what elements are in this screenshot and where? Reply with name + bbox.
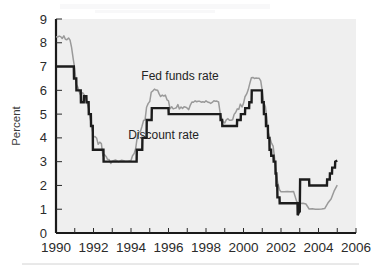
y-tick-label: 3 xyxy=(40,154,47,169)
y-tick-label: 1 xyxy=(40,202,47,217)
y-tick-label: 8 xyxy=(40,35,47,50)
y-tick-label: 4 xyxy=(40,130,47,145)
x-tick-label: 1998 xyxy=(191,240,221,255)
x-axis-tick-labels: 199019921994199619982000200220042006 xyxy=(41,240,371,255)
x-tick-label: 1992 xyxy=(78,240,108,255)
plot-area-background xyxy=(56,19,356,233)
y-axis-title: Percent xyxy=(10,105,22,145)
y-tick-label: 7 xyxy=(40,59,47,74)
x-tick-label: 1994 xyxy=(116,240,147,255)
fed-funds-vs-discount-rate-chart: 0123456789 19901992199419961998200020022… xyxy=(0,0,381,269)
y-tick-label: 5 xyxy=(40,107,47,122)
x-tick-label: 2000 xyxy=(228,240,258,255)
x-tick-label: 2002 xyxy=(266,240,296,255)
y-tick-label: 0 xyxy=(40,226,47,241)
y-tick-label: 6 xyxy=(40,83,47,98)
x-tick-label: 2004 xyxy=(303,240,334,255)
x-tick-label: 1996 xyxy=(153,240,183,255)
y-tick-label: 9 xyxy=(40,12,47,27)
discount-rate-label: Discount rate xyxy=(128,128,199,142)
y-tick-label: 2 xyxy=(40,178,47,193)
fed-funds-rate-label: Fed funds rate xyxy=(141,69,219,83)
x-tick-label: 2006 xyxy=(341,240,371,255)
chart-figure: 0123456789 19901992199419961998200020022… xyxy=(0,0,381,269)
x-tick-label: 1990 xyxy=(41,240,71,255)
